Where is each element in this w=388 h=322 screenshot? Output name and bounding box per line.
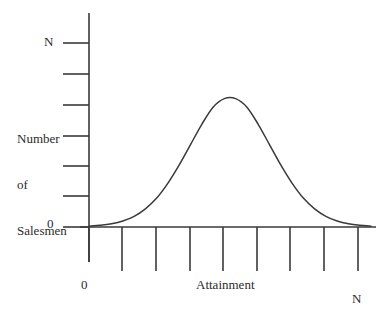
y-axis-title-line-3: Salesmen: [17, 223, 67, 238]
x-axis-ticks-group: [89, 227, 358, 271]
chart-container: N 0 Number of Salesmen 0 Attainment N: [0, 0, 388, 322]
y-axis-title-line-2: of: [17, 177, 67, 192]
y-axis-max-label: N: [44, 34, 53, 49]
x-axis-max-label: N: [352, 291, 361, 306]
x-axis-min-label: 0: [81, 277, 88, 292]
bell-curve-icon: [89, 98, 371, 227]
x-axis-title: Attainment: [196, 277, 255, 292]
y-axis-ticks-group: [63, 43, 89, 227]
axes-group: [80, 13, 376, 262]
y-axis-title-line-1: Number: [17, 131, 67, 146]
y-axis-title: Number of Salesmen: [17, 100, 67, 269]
